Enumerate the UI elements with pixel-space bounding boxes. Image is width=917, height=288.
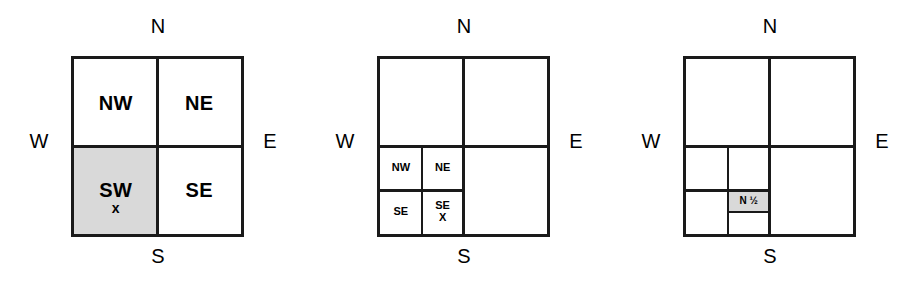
compass-label-north: N <box>743 16 797 36</box>
outer-square: N ½ <box>683 56 856 237</box>
outer-square: NW NE SW x SE <box>71 56 244 237</box>
quadrant-nw[interactable] <box>686 59 770 147</box>
compass-label-west: W <box>634 131 668 151</box>
quadrant-nw[interactable]: NW <box>74 59 158 147</box>
sub-divider-horizontal <box>686 189 770 192</box>
subcell-se-label-text: SE <box>435 200 450 212</box>
compass-label-east: E <box>559 131 593 151</box>
figure-root: N S W E NW NE SW x SE <box>0 0 917 288</box>
compass-label-south: S <box>743 246 797 266</box>
quadrant-ne[interactable]: NE <box>158 59 242 147</box>
compass-label-south: S <box>131 246 185 266</box>
quadrant-grid: N ½ <box>686 59 853 234</box>
compass-label-east: E <box>253 131 287 151</box>
sub-divider-horizontal <box>380 189 464 192</box>
leaf-divider-horizontal <box>728 211 770 214</box>
subcell-se-label: SEX <box>422 201 464 224</box>
compass-label-north: N <box>131 16 185 36</box>
subcell-ne-label: NE <box>422 163 464 175</box>
subcell-nw[interactable]: NW <box>380 147 422 191</box>
subdivided-quadrant-sw: NW NE SE SEX <box>380 147 464 235</box>
divider-horizontal <box>380 145 547 148</box>
divider-horizontal <box>686 145 853 148</box>
subcell-ne[interactable] <box>728 147 770 191</box>
quadrant-grid: NW NE SE SEX <box>380 59 547 234</box>
subdivided-quadrant-sw: N ½ <box>686 147 770 235</box>
leaf-north-half-label: N ½ <box>728 196 770 206</box>
compass-label-south: S <box>437 246 491 266</box>
subcell-se[interactable]: SEX <box>422 190 464 234</box>
quadrant-nw-label: NW <box>74 93 158 113</box>
quadrant-ne[interactable] <box>464 59 548 147</box>
compass-label-east: E <box>865 131 899 151</box>
quadrant-se[interactable] <box>770 147 854 235</box>
compass-label-west: W <box>328 131 362 151</box>
quadrant-grid: NW NE SW x SE <box>74 59 241 234</box>
leaf-north-half[interactable]: N ½ <box>728 190 770 212</box>
compass-label-west: W <box>22 131 56 151</box>
subcell-sw-label: SE <box>380 206 422 218</box>
quadrant-sw[interactable]: SW x <box>74 147 158 235</box>
diagram-sw-quadrant-subdivided: N S W E NW NE SE <box>306 0 611 288</box>
subcell-sw[interactable] <box>686 190 728 234</box>
quadrant-ne-label: NE <box>158 93 242 113</box>
quadrant-nw[interactable] <box>380 59 464 147</box>
quadrant-se-label: SE <box>158 180 242 200</box>
subcell-nw-label: NW <box>380 163 422 175</box>
subcell-nw[interactable] <box>686 147 728 191</box>
compass-label-north: N <box>437 16 491 36</box>
divider-horizontal <box>74 145 241 148</box>
subcell-se-marker: X <box>439 211 446 223</box>
quadrant-sw-marker: x <box>74 201 158 215</box>
diagram-sw-subcell-halved: N S W E N ½ <box>612 0 917 288</box>
halved-subcell-se: N ½ <box>728 190 770 234</box>
quadrant-se[interactable] <box>464 147 548 235</box>
subcell-ne[interactable]: NE <box>422 147 464 191</box>
quadrant-ne[interactable] <box>770 59 854 147</box>
outer-square: NW NE SE SEX <box>377 56 550 237</box>
subcell-sw[interactable]: SE <box>380 190 422 234</box>
leaf-south-half[interactable] <box>728 212 770 234</box>
quadrant-se[interactable]: SE <box>158 147 242 235</box>
diagram-quadrant-labels: N S W E NW NE SW x SE <box>0 0 305 288</box>
quadrant-sw-label: SW <box>74 180 158 200</box>
